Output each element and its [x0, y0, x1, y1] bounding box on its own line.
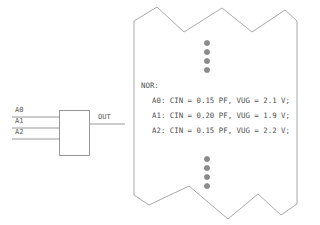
ellipsis-dot-top-3 [204, 58, 209, 63]
ellipsis-dot-bottom-4 [204, 183, 209, 188]
ellipsis-dot-bottom-1 [204, 156, 209, 161]
note-line-a0: A0: CIN = 0.15 PF, VUG = 2.1 V; [152, 97, 290, 104]
ellipsis-dot-top-1 [204, 40, 209, 45]
ellipsis-dot-top-4 [204, 67, 209, 72]
note-line-a2: A2: CIN = 0.15 PF, VUG = 2.2 V; [152, 127, 290, 134]
diagram-canvas: A0 A1 A2 OUT NOR: A0: CIN = 0.15 PF, VUG… [0, 0, 320, 225]
note-line-a1: A1: CIN = 0.20 PF, VUG = 1.9 V; [152, 112, 290, 119]
ellipsis-dot-bottom-3 [204, 174, 209, 179]
ellipsis-dot-top-2 [204, 49, 209, 54]
ellipsis-dot-bottom-2 [204, 165, 209, 170]
note-heading: NOR: [141, 82, 159, 89]
